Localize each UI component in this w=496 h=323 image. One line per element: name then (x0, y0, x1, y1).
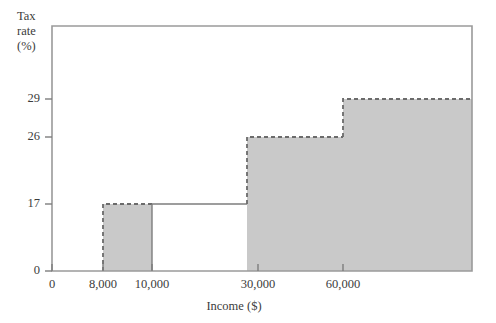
x-axis-title: Income ($) (0, 299, 496, 314)
step-area-bracket-1 (103, 204, 152, 271)
x-tick-label-30000: 30,000 (218, 277, 298, 292)
step-area-bracket-2 (247, 137, 343, 271)
y-tick-label-29: 29 (8, 91, 40, 106)
step-area-bracket-3 (343, 99, 472, 271)
y-axis-title-line-2: rate (17, 24, 51, 39)
step-chart-canvas (0, 0, 496, 323)
y-tick-label-0: 0 (8, 263, 40, 278)
y-tick-label-26: 26 (8, 129, 40, 144)
y-axis-title-line-3: (%) (17, 39, 51, 54)
y-axis-ticks (45, 99, 52, 271)
y-tick-label-17: 17 (8, 196, 40, 211)
y-axis-title-line-1: Tax (17, 9, 51, 24)
x-tick-label-10000: 10,000 (112, 277, 192, 292)
x-tick-label-60000: 60,000 (303, 277, 383, 292)
x-axis-title-text: Income ($) (206, 299, 261, 313)
y-axis-title: Tax rate (%) (17, 9, 51, 54)
chart-figure: Tax rate (%) 0 17 26 29 0 8,000 10,000 3… (0, 0, 496, 323)
